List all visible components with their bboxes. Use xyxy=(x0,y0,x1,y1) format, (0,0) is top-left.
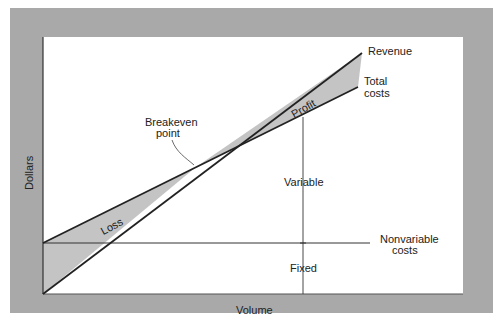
revenue-line xyxy=(43,53,362,294)
nonvariable-label-2: costs xyxy=(392,244,418,256)
revenue-label: Revenue xyxy=(368,45,412,57)
total-costs-label-2: costs xyxy=(364,87,390,99)
profit-region xyxy=(196,53,362,167)
y-axis-label: Dollars xyxy=(23,155,35,190)
variable-label: Variable xyxy=(284,176,324,188)
breakeven-label-2: point xyxy=(156,127,180,139)
fixed-label: Fixed xyxy=(290,262,317,274)
breakeven-leader xyxy=(172,140,194,165)
breakeven-chart: Revenue Total costs Breakeven point Prof… xyxy=(0,0,498,332)
x-axis-label: Volume xyxy=(236,304,273,316)
loss-region xyxy=(43,167,196,294)
total-costs-label-1: Total xyxy=(364,75,387,87)
